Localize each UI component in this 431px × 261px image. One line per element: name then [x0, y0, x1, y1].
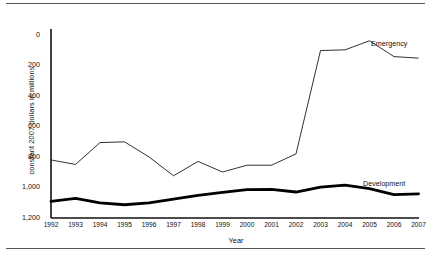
top-divider-rule	[6, 3, 425, 4]
chart-plot-area	[0, 8, 431, 246]
bottom-divider-rule	[6, 248, 425, 249]
series-label-development: Development	[363, 179, 405, 188]
x-tick-label: 2007	[404, 221, 431, 229]
line-chart: constant 2007 dollars in millions Year 1…	[0, 8, 431, 246]
figure-page: constant 2007 dollars in millions Year 1…	[0, 0, 431, 261]
series-label-emergency: Emergency	[371, 39, 407, 48]
emergency-series-line	[51, 41, 419, 176]
development-series-line	[51, 185, 419, 205]
